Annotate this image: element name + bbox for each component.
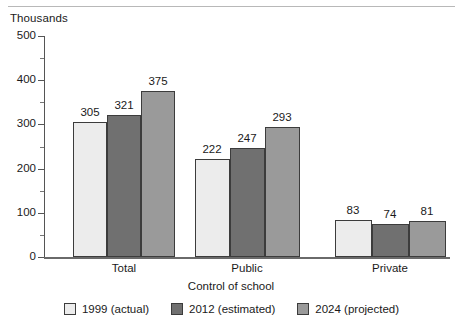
bar-value-label: 321 bbox=[114, 99, 133, 111]
y-tick-label: 100 bbox=[6, 206, 36, 218]
bar[interactable] bbox=[265, 127, 300, 257]
y-tick-major bbox=[38, 257, 44, 258]
y-tick-major bbox=[38, 169, 44, 170]
bar[interactable] bbox=[409, 221, 446, 257]
y-tick-label: 0 bbox=[6, 250, 36, 262]
bar[interactable] bbox=[230, 148, 265, 257]
y-tick-minor bbox=[40, 58, 44, 59]
bar[interactable] bbox=[335, 220, 372, 257]
bar-value-label: 305 bbox=[80, 106, 99, 118]
bar-value-label: 222 bbox=[202, 143, 221, 155]
y-tick-major bbox=[38, 124, 44, 125]
y-tick-major bbox=[38, 80, 44, 81]
bar[interactable] bbox=[195, 159, 230, 257]
bar-chart: Thousands 0100200300400500 3053213752222… bbox=[0, 0, 463, 330]
legend-label: 2024 (projected) bbox=[315, 303, 399, 315]
y-tick-minor bbox=[40, 147, 44, 148]
legend-swatch-icon bbox=[297, 303, 309, 315]
y-tick-minor bbox=[40, 102, 44, 103]
y-tick-label: 300 bbox=[6, 117, 36, 129]
x-axis-group-label: Public bbox=[231, 262, 262, 274]
y-tick-minor bbox=[40, 235, 44, 236]
legend-swatch-icon bbox=[171, 303, 183, 315]
bar[interactable] bbox=[107, 115, 141, 257]
bar-value-label: 74 bbox=[384, 208, 397, 220]
y-tick-label: 200 bbox=[6, 162, 36, 174]
x-axis-group-label: Total bbox=[112, 262, 136, 274]
legend-item[interactable]: 2012 (estimated) bbox=[171, 303, 275, 315]
legend-item[interactable]: 2024 (projected) bbox=[297, 303, 399, 315]
bar-value-label: 83 bbox=[347, 204, 360, 216]
legend-swatch-icon bbox=[64, 303, 76, 315]
legend-item[interactable]: 1999 (actual) bbox=[64, 303, 149, 315]
chart-legend: 1999 (actual)2012 (estimated)2024 (proje… bbox=[0, 303, 463, 315]
y-tick-major bbox=[38, 213, 44, 214]
y-axis-line bbox=[44, 36, 45, 258]
bar-value-label: 293 bbox=[272, 111, 291, 123]
y-tick-major bbox=[38, 36, 44, 37]
legend-label: 2012 (estimated) bbox=[189, 303, 275, 315]
bar[interactable] bbox=[372, 224, 409, 257]
x-axis-line bbox=[44, 257, 450, 259]
y-tick-minor bbox=[40, 191, 44, 192]
y-axis-units-caption: Thousands bbox=[10, 12, 68, 24]
bar-value-label: 81 bbox=[421, 205, 434, 217]
bar[interactable] bbox=[141, 91, 175, 257]
y-tick-label: 500 bbox=[6, 29, 36, 41]
y-tick-label: 400 bbox=[6, 73, 36, 85]
bar-value-label: 247 bbox=[237, 132, 256, 144]
bar[interactable] bbox=[73, 122, 107, 257]
x-axis-group-label: Private bbox=[372, 262, 408, 274]
bar-value-label: 375 bbox=[148, 75, 167, 87]
legend-label: 1999 (actual) bbox=[82, 303, 149, 315]
top-divider bbox=[8, 6, 455, 7]
x-axis-title: Control of school bbox=[188, 280, 274, 292]
